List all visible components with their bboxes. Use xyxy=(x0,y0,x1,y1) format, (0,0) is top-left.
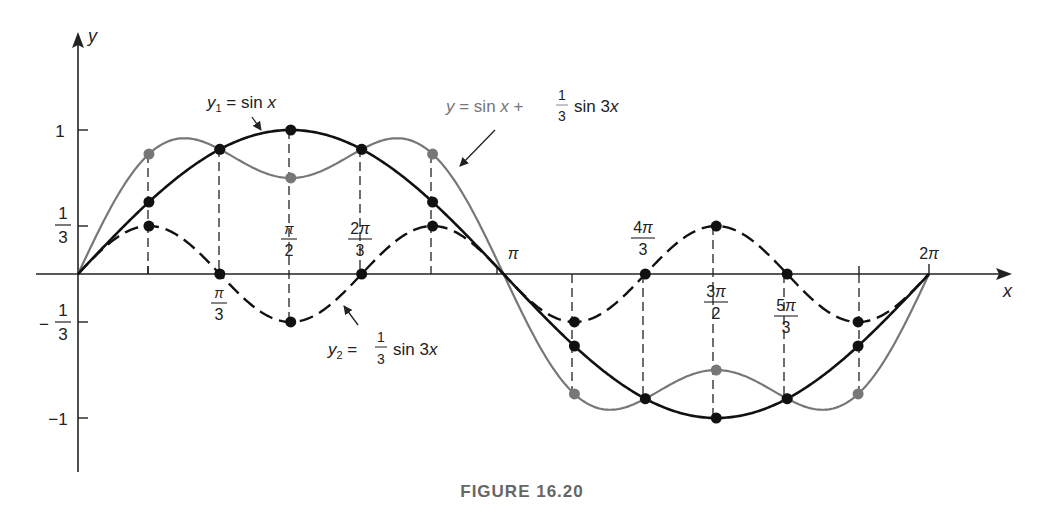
data-point xyxy=(214,269,225,280)
svg-text:5π: 5π xyxy=(776,297,796,314)
svg-text:3: 3 xyxy=(782,319,791,336)
svg-text:−1: −1 xyxy=(48,410,67,429)
svg-text:1: 1 xyxy=(58,204,67,223)
data-point xyxy=(640,269,651,280)
svg-text:y = sin x +: y = sin x + xyxy=(445,97,524,116)
data-point xyxy=(356,269,367,280)
data-point xyxy=(285,316,296,327)
data-point xyxy=(569,388,580,399)
svg-text:1: 1 xyxy=(377,329,385,345)
data-point xyxy=(711,365,722,376)
data-point xyxy=(427,221,438,232)
data-point xyxy=(285,172,296,183)
svg-text:3: 3 xyxy=(215,306,224,323)
svg-text:π: π xyxy=(508,245,519,262)
data-point xyxy=(853,316,864,327)
axes xyxy=(36,32,1012,472)
svg-text:3π: 3π xyxy=(706,283,726,300)
figure-canvas: 1 1 3 − 1 3 −1 π 3 π 2 2π 3 π 4π 3 3π 2 … xyxy=(0,0,1044,480)
data-point xyxy=(143,197,154,208)
data-point xyxy=(569,316,580,327)
svg-text:3: 3 xyxy=(356,242,365,259)
svg-text:3: 3 xyxy=(58,325,67,344)
data-point xyxy=(143,221,154,232)
svg-text:sin 3x: sin 3x xyxy=(574,97,619,116)
svg-text:1: 1 xyxy=(558,87,566,103)
label-y2: y2 = 1 3 sin 3x xyxy=(327,306,438,367)
svg-text:1: 1 xyxy=(55,122,64,141)
figure-caption: FIGURE 16.20 xyxy=(0,482,1044,502)
label-y1: y1 = sin x xyxy=(206,93,276,130)
svg-text:y2 =: y2 = xyxy=(327,340,357,361)
svg-text:2π: 2π xyxy=(919,245,939,262)
svg-text:2: 2 xyxy=(712,305,721,322)
svg-text:4π: 4π xyxy=(633,219,653,236)
x-ticks xyxy=(148,264,929,274)
data-point xyxy=(427,197,438,208)
svg-text:3: 3 xyxy=(639,241,648,258)
svg-text:−: − xyxy=(39,315,49,334)
svg-text:3: 3 xyxy=(377,351,385,367)
data-point xyxy=(853,388,864,399)
x-axis-label: x xyxy=(1002,281,1013,301)
label-sum: y = sin x + 1 3 sin 3x xyxy=(445,87,619,166)
data-point xyxy=(853,341,864,352)
svg-text:sin 3x: sin 3x xyxy=(393,340,438,359)
data-point xyxy=(569,341,580,352)
data-point xyxy=(640,393,651,404)
svg-text:2: 2 xyxy=(285,242,294,259)
data-point xyxy=(285,125,296,136)
svg-text:π: π xyxy=(284,221,294,237)
svg-text:3: 3 xyxy=(558,108,566,124)
data-point xyxy=(427,149,438,160)
data-point xyxy=(143,149,154,160)
y-tick-labels: 1 1 3 − 1 3 −1 xyxy=(39,122,71,429)
data-point xyxy=(356,144,367,155)
svg-text:3: 3 xyxy=(58,228,67,247)
data-point xyxy=(711,221,722,232)
svg-text:2π: 2π xyxy=(350,220,370,237)
data-point xyxy=(711,413,722,424)
data-point xyxy=(782,269,793,280)
y-axis-label: y xyxy=(86,26,98,46)
data-point xyxy=(214,144,225,155)
data-point xyxy=(782,393,793,404)
svg-text:π: π xyxy=(214,285,224,301)
svg-text:y1 = sin x: y1 = sin x xyxy=(206,93,276,114)
svg-text:1: 1 xyxy=(58,301,67,320)
